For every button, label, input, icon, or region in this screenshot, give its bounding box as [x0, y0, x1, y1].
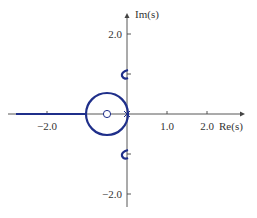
- root-locus-plot: −2.0 1.0 2.0 2.0 −2.0 Re(s) Im(s): [0, 0, 257, 218]
- zero-marker-icon: [103, 110, 110, 117]
- y-tick-label-2: 2.0: [108, 28, 122, 40]
- imag-axis-arrow-icon: [125, 13, 130, 18]
- x-tick-label-neg2: −2.0: [37, 120, 57, 132]
- y-axis-label: Im(s): [135, 8, 159, 21]
- real-axis-arrow-icon: [240, 112, 245, 117]
- x-axis-label: Re(s): [219, 120, 243, 133]
- y-tick-label-neg2: −2.0: [102, 188, 122, 200]
- x-tick-label-1: 1.0: [160, 120, 174, 132]
- x-tick-label-2: 2.0: [200, 120, 214, 132]
